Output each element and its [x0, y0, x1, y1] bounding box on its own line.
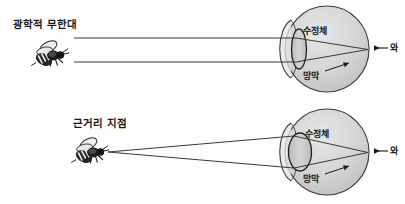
accommodation-diagram: 광학적 무한대 수정체 망막 와 근거리 지점 [0, 0, 405, 204]
lens-label-far: 수정체 [303, 25, 327, 36]
fovea-label-near: 와 [390, 145, 399, 156]
scene-label-near: 근거리 지점 [73, 117, 127, 129]
retina-label-near: 망막 [303, 173, 320, 184]
scene-label-far: 광학적 무한대 [13, 18, 77, 30]
lens-label-near: 수정체 [305, 128, 329, 139]
retina-label-far: 망막 [303, 70, 320, 81]
fovea-label-far: 와 [390, 42, 399, 53]
